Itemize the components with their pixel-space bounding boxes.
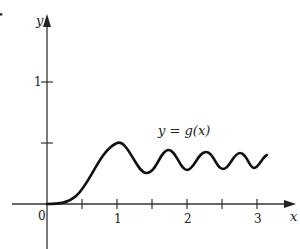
x-axis-arrow-icon: [284, 200, 296, 208]
curve-label: y = g(x): [158, 124, 210, 137]
y-tick-label-1: 1: [34, 76, 42, 88]
curve-g: [47, 143, 267, 204]
x-tick-label-3: 3: [254, 213, 262, 225]
y-axis-arrow-icon: [43, 14, 51, 27]
x-axis-label: x: [290, 210, 297, 223]
side-mark: •: [0, 10, 4, 20]
x-tick-label-1: 1: [114, 213, 122, 225]
y-axis-label: y: [36, 14, 43, 27]
origin-label: 0: [38, 210, 46, 222]
x-tick-label-2: 2: [184, 213, 192, 225]
